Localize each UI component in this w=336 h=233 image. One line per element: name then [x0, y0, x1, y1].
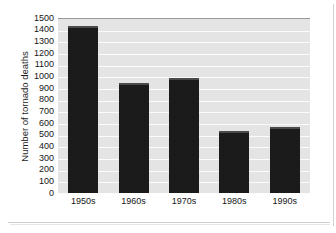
y-tick-label: 0 [20, 189, 54, 198]
chart-figure: Number of tornado deaths 150014001300120… [0, 0, 336, 233]
bar [68, 26, 98, 193]
bar-slot [209, 19, 259, 193]
y-tick-label: 500 [20, 130, 54, 139]
y-tick-label: 300 [20, 154, 54, 163]
y-tick-label: 100 [20, 177, 54, 186]
bar [219, 131, 249, 193]
x-tick-label: 1960s [108, 196, 158, 206]
y-tick-label: 400 [20, 142, 54, 151]
bar-slot [260, 19, 310, 193]
figure-frame-right-edge [333, 4, 334, 226]
y-tick-label: 1100 [20, 60, 54, 69]
y-tick-label: 1400 [20, 25, 54, 34]
x-tick-label: 1970s [159, 196, 209, 206]
y-tick-label: 800 [20, 95, 54, 104]
x-axis-tick-labels: 1950s1960s1970s1980s1990s [58, 196, 310, 206]
bar-slot [159, 19, 209, 193]
bar-series [58, 19, 310, 193]
x-tick-label: 1990s [260, 196, 310, 206]
x-tick-label: 1980s [209, 196, 259, 206]
x-tick-label: 1950s [58, 196, 108, 206]
y-tick-label: 1500 [20, 14, 54, 23]
y-tick-label: 700 [20, 107, 54, 116]
y-tick-label: 900 [20, 84, 54, 93]
y-tick-label: 1300 [20, 37, 54, 46]
bar-slot [58, 19, 108, 193]
figure-frame-bottom-edge [8, 222, 330, 223]
y-tick-label: 1000 [20, 72, 54, 81]
figure-frame-bottom-shadow [10, 224, 330, 225]
y-tick-label: 200 [20, 165, 54, 174]
bar [270, 127, 300, 193]
bar [169, 78, 199, 193]
y-tick-label: 600 [20, 119, 54, 128]
plot-area [58, 18, 310, 193]
y-tick-label: 1200 [20, 49, 54, 58]
bar [119, 83, 149, 193]
y-axis-tick-labels: 1500140013001200110010009008007006005004… [20, 18, 54, 193]
bar-slot [108, 19, 158, 193]
